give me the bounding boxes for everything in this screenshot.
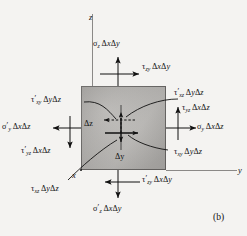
force-label-tau-xy-prime-left: τ′xy ΔyΔz (31, 96, 61, 104)
force-label-tau-yz-prime-left: τ′yz ΔxΔz (21, 147, 51, 155)
force-label-tau-yz-right: τyz ΔxΔz (182, 104, 210, 112)
stress-element-figure: z y x Δz Δy (0, 0, 247, 236)
leader-tau-xy (128, 135, 168, 150)
force-label-sigma-z-prime-bottom: σ′z ΔxΔy (93, 205, 122, 213)
force-vector-overlay (0, 0, 247, 236)
leader-tau-xz-prime (126, 99, 178, 117)
force-label-tau-xz-bottom-left: τxz ΔyΔz (31, 185, 59, 193)
force-label-sigma-y-right: σy ΔxΔz (197, 123, 224, 131)
force-label-sigma-z-top: σz ΔxΔy (93, 40, 120, 48)
force-label-tau-xy-right: τxy ΔyΔz (174, 148, 202, 156)
leader-tau-xz (68, 140, 117, 180)
force-label-tau-zy-top: τzy ΔxΔy (142, 63, 170, 71)
figure-caption: (b) (213, 212, 224, 222)
leader-tau-xy-prime (84, 102, 116, 119)
force-label-tau-xz-prime-right: τ′xz ΔyΔz (174, 89, 204, 97)
force-label-tau-zy-prime-bottom: τ′zy ΔxΔy (142, 176, 172, 184)
force-label-sigma-y-prime-left: σ′y ΔxΔz (2, 123, 30, 131)
